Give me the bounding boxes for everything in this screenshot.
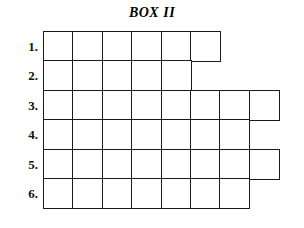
grid-cell[interactable] [219, 149, 250, 180]
row-number-label: 2. [10, 60, 38, 91]
page-title: BOX II [0, 4, 304, 22]
grid-cell[interactable] [161, 90, 192, 121]
grid-cell[interactable] [72, 31, 103, 62]
grid-cell[interactable] [102, 119, 133, 150]
grid-cell[interactable] [161, 60, 192, 91]
grid-cell[interactable] [249, 90, 280, 121]
grid-cell[interactable] [72, 149, 103, 180]
grid-row [43, 60, 190, 91]
grid-cell[interactable] [102, 90, 133, 121]
grid-cell[interactable] [219, 178, 250, 209]
grid-cell[interactable] [161, 119, 192, 150]
row-number-label: 4. [10, 119, 38, 150]
grid-row [43, 31, 219, 62]
grid-cell[interactable] [161, 178, 192, 209]
grid-cell[interactable] [131, 31, 162, 62]
grid-cell[interactable] [161, 149, 192, 180]
puzzle-worksheet: BOX II 1.2.3.4.5.6. [0, 0, 304, 228]
grid-cell[interactable] [102, 149, 133, 180]
grid-cell[interactable] [131, 149, 162, 180]
grid-cell[interactable] [43, 178, 74, 209]
grid-cell[interactable] [43, 60, 74, 91]
grid-cell[interactable] [190, 90, 221, 121]
grid-cell[interactable] [43, 90, 74, 121]
grid-cell[interactable] [72, 90, 103, 121]
grid-cell[interactable] [72, 60, 103, 91]
grid-row [43, 90, 278, 121]
grid-cell[interactable] [43, 31, 74, 62]
grid-cell[interactable] [131, 60, 162, 91]
grid-cell[interactable] [161, 31, 192, 62]
grid-cell[interactable] [190, 149, 221, 180]
grid-cell[interactable] [190, 178, 221, 209]
grid-cell[interactable] [131, 119, 162, 150]
grid-cell[interactable] [249, 149, 280, 180]
row-number-label: 1. [10, 31, 38, 62]
grid-cell[interactable] [72, 119, 103, 150]
grid-cell[interactable] [219, 119, 250, 150]
grid-cell[interactable] [102, 31, 133, 62]
grid-cell[interactable] [219, 90, 250, 121]
row-number-label: 3. [10, 90, 38, 121]
grid-cell[interactable] [131, 90, 162, 121]
row-number-label: 5. [10, 149, 38, 180]
grid-cell[interactable] [190, 119, 221, 150]
grid-cell[interactable] [43, 119, 74, 150]
grid-row [43, 149, 278, 180]
row-number-label: 6. [10, 178, 38, 209]
grid-cell[interactable] [190, 31, 221, 62]
grid-cell[interactable] [43, 149, 74, 180]
grid-row [43, 119, 249, 150]
grid-cell[interactable] [102, 60, 133, 91]
grid-cell[interactable] [102, 178, 133, 209]
grid-row [43, 178, 249, 209]
grid-cell[interactable] [72, 178, 103, 209]
grid-cell[interactable] [131, 178, 162, 209]
